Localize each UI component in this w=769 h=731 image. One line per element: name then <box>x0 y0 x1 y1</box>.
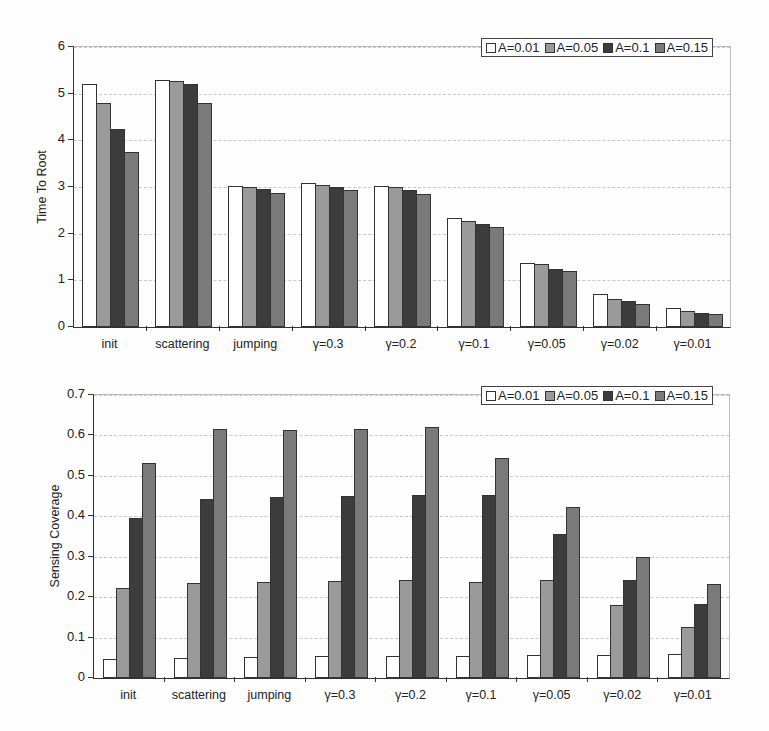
sensing-coverage-chart: Sensing Coverage A=0.01A=0.05A=0.1A=0.15… <box>0 0 769 731</box>
legend: A=0.01A=0.05A=0.1A=0.15 <box>481 386 713 405</box>
bar <box>597 655 611 678</box>
bar <box>386 656 400 678</box>
bar <box>636 557 650 678</box>
bar <box>187 583 201 678</box>
x-tick-mark <box>587 677 588 682</box>
legend-label: A=0.1 <box>615 388 649 403</box>
bar <box>354 429 368 678</box>
bar <box>328 581 342 678</box>
x-tick-mark <box>516 677 517 682</box>
y-axis-label: Sensing Coverage <box>48 481 62 591</box>
bar <box>412 495 426 678</box>
bar <box>540 580 554 678</box>
bar <box>315 656 329 678</box>
bar <box>142 463 156 678</box>
bar <box>174 658 188 678</box>
y-tick-mark <box>88 394 93 395</box>
bar <box>469 582 483 678</box>
legend-item: A=0.15 <box>655 388 709 403</box>
legend-item: A=0.01 <box>486 388 540 403</box>
x-tick-label: scattering <box>163 688 235 702</box>
y-tick-label: 0 <box>55 669 85 684</box>
y-tick-label: 0.2 <box>55 588 85 603</box>
bar <box>482 495 496 678</box>
x-tick-mark <box>305 677 306 682</box>
bar <box>694 604 708 678</box>
gridline <box>94 435 729 436</box>
bar <box>129 518 143 679</box>
bar <box>200 499 214 678</box>
y-tick-mark <box>88 556 93 557</box>
y-tick-label: 0.4 <box>55 507 85 522</box>
y-tick-mark <box>88 677 93 678</box>
x-tick-label: init <box>92 688 164 702</box>
bar <box>566 507 580 678</box>
x-tick-label: γ=0.3 <box>304 688 376 702</box>
legend-swatch-icon <box>603 391 613 401</box>
y-tick-label: 0.7 <box>55 386 85 401</box>
bar <box>270 497 284 678</box>
x-tick-label: γ=0.2 <box>375 688 447 702</box>
bar <box>244 657 258 678</box>
bar <box>610 605 624 678</box>
bar <box>116 588 130 678</box>
y-tick-mark <box>88 596 93 597</box>
y-tick-mark <box>88 475 93 476</box>
legend-swatch-icon <box>545 391 555 401</box>
bar <box>399 580 413 678</box>
legend-item: A=0.1 <box>603 388 649 403</box>
y-tick-mark <box>88 515 93 516</box>
legend-item: A=0.05 <box>545 388 599 403</box>
y-tick-mark <box>88 434 93 435</box>
gridline <box>94 476 729 477</box>
bar <box>213 429 227 678</box>
x-tick-mark <box>375 677 376 682</box>
bar <box>283 430 297 678</box>
y-tick-mark <box>88 637 93 638</box>
legend-label: A=0.01 <box>498 388 540 403</box>
legend-label: A=0.05 <box>557 388 599 403</box>
bar <box>681 627 695 678</box>
y-tick-label: 0.1 <box>55 629 85 644</box>
x-tick-mark <box>657 677 658 682</box>
bar <box>425 427 439 678</box>
x-tick-label: jumping <box>233 688 305 702</box>
bar <box>668 654 682 678</box>
bar <box>456 656 470 678</box>
bar <box>103 659 117 678</box>
bar <box>707 584 721 678</box>
y-tick-label: 0.5 <box>55 467 85 482</box>
x-tick-mark <box>234 677 235 682</box>
legend-swatch-icon <box>486 391 496 401</box>
bar <box>257 582 271 678</box>
y-tick-label: 0.6 <box>55 426 85 441</box>
legend-swatch-icon <box>655 391 665 401</box>
bar <box>495 458 509 678</box>
y-tick-label: 0.3 <box>55 548 85 563</box>
bar <box>623 580 637 678</box>
x-tick-label: γ=0.05 <box>516 688 588 702</box>
bar <box>553 534 567 678</box>
plot-area <box>93 394 730 679</box>
bar <box>527 655 541 678</box>
x-tick-label: γ=0.1 <box>445 688 517 702</box>
x-tick-mark <box>164 677 165 682</box>
x-tick-label: γ=0.02 <box>586 688 658 702</box>
x-tick-mark <box>446 677 447 682</box>
x-tick-label: γ=0.01 <box>657 688 729 702</box>
bar <box>341 496 355 678</box>
legend-label: A=0.15 <box>667 388 709 403</box>
